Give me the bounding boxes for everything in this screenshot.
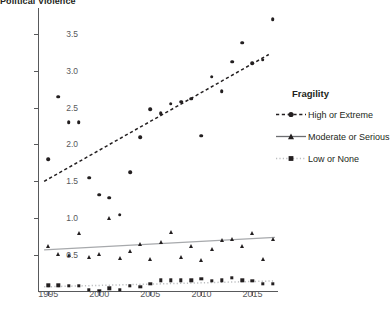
data-point-square (118, 288, 121, 291)
data-point-square (251, 279, 254, 282)
data-point-circle (108, 196, 112, 200)
data-point-circle (210, 75, 214, 79)
data-point-square (210, 279, 213, 282)
data-point-triangle (189, 244, 193, 248)
legend-label: Moderate or Serious (308, 132, 390, 142)
y-tick (34, 218, 38, 219)
y-tick (34, 108, 38, 109)
legend-entry[interactable]: Low or None (292, 153, 390, 164)
data-point-square (47, 284, 50, 287)
data-point-circle (240, 41, 244, 45)
data-point-square (230, 276, 233, 279)
data-point-triangle (210, 247, 214, 251)
y-tick-label: 1.5 (52, 176, 78, 186)
data-point-triangle (128, 249, 132, 253)
data-point-triangle (230, 237, 234, 241)
legend-label: High or Extreme (308, 110, 373, 120)
chart-title: Political Violence (0, 0, 76, 6)
y-tick-label: 3.5 (52, 29, 78, 39)
data-point-triangle (240, 244, 244, 248)
data-point-circle (230, 60, 234, 64)
data-point-triangle (97, 252, 101, 256)
data-point-square (179, 278, 182, 281)
data-point-square (159, 278, 162, 281)
chart-root: Political Violence 0.51.01.52.02.53.03.5… (0, 0, 390, 317)
data-point-triangle (87, 255, 91, 259)
data-point-square (77, 284, 80, 287)
data-point-circle (87, 176, 91, 180)
data-point-circle (251, 62, 255, 66)
data-point-triangle (220, 238, 224, 242)
data-point-square (200, 277, 203, 280)
data-point-square (220, 278, 223, 281)
data-point-triangle (107, 216, 111, 220)
y-tick-label: 3.0 (52, 66, 78, 76)
y-tick-label: 2.5 (52, 103, 78, 113)
data-point-square (271, 282, 274, 285)
y-tick (34, 255, 38, 256)
data-point-triangle (261, 257, 265, 261)
legend-entry[interactable]: Moderate or Serious (292, 131, 390, 142)
x-tick-label: 1995 (38, 289, 58, 299)
data-point-circle (138, 135, 142, 139)
y-tick-label: 2.0 (52, 139, 78, 149)
legend-label: Low or None (308, 154, 359, 164)
data-point-circle (271, 17, 275, 21)
legend-entry[interactable]: High or Extreme (292, 109, 390, 120)
data-point-circle (67, 121, 71, 125)
data-point-circle (77, 121, 81, 125)
data-point-triangle (169, 230, 173, 234)
triangle-icon (274, 131, 308, 142)
data-point-circle (200, 134, 204, 138)
data-point-circle (159, 112, 163, 116)
data-point-square (189, 278, 192, 281)
data-point-square (138, 285, 141, 288)
legend-title: Fragility (292, 88, 390, 99)
legend-marker (274, 131, 308, 142)
y-tick-label: 1.0 (52, 213, 78, 223)
legend-entries: High or ExtremeModerate or SeriousLow or… (292, 109, 390, 164)
legend-marker (274, 109, 308, 120)
x-tick-label: 2015 (242, 289, 262, 299)
square-icon (274, 153, 308, 164)
data-point-square (169, 278, 172, 281)
data-point-circle (149, 107, 153, 111)
circle-icon (274, 109, 308, 120)
data-point-triangle (250, 231, 254, 235)
data-point-square (57, 284, 60, 287)
data-point-circle (57, 95, 61, 99)
data-point-triangle (46, 244, 50, 248)
data-point-square (128, 284, 131, 287)
data-point-triangle (118, 256, 122, 260)
data-point-circle (128, 171, 132, 175)
data-point-circle (46, 157, 50, 161)
data-point-triangle (77, 231, 81, 235)
data-point-circle (220, 90, 224, 94)
data-point-square (149, 282, 152, 285)
legend-marker (274, 153, 308, 164)
y-tick (34, 144, 38, 145)
y-tick-label: 0.5 (52, 250, 78, 260)
x-tick-label: 2005 (140, 289, 160, 299)
data-point-circle (97, 193, 101, 197)
y-tick (34, 181, 38, 182)
x-tick-label: 2000 (89, 289, 109, 299)
data-point-circle (179, 100, 183, 104)
y-tick (34, 34, 38, 35)
data-point-circle (169, 102, 173, 106)
data-point-square (261, 282, 264, 285)
y-tick (34, 71, 38, 72)
x-tick-label: 2010 (191, 289, 211, 299)
data-point-triangle (199, 258, 203, 262)
data-point-triangle (159, 240, 163, 244)
data-point-circle (189, 97, 193, 101)
data-point-square (241, 278, 244, 281)
chart-legend: Fragility High or ExtremeModerate or Ser… (292, 88, 390, 175)
data-point-circle (261, 58, 265, 62)
data-point-circle (118, 213, 122, 217)
data-point-triangle (271, 237, 275, 241)
data-point-triangle (138, 242, 142, 246)
data-point-square (67, 284, 70, 287)
data-point-triangle (148, 257, 152, 261)
data-point-triangle (179, 255, 183, 259)
